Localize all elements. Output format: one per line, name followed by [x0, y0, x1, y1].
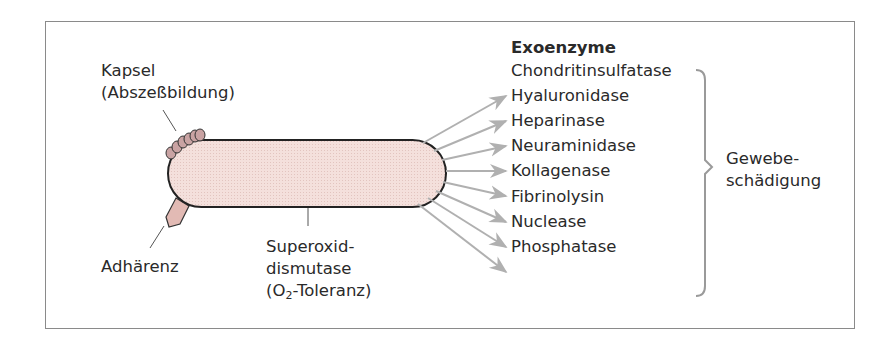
bacterial-cell-icon	[168, 140, 446, 207]
exoenzyme-item: Heparinase	[511, 110, 605, 132]
capsule-label: Kapsel (Abszeßbildung)	[101, 60, 235, 104]
exoenzyme-item: Nuclease	[511, 211, 586, 233]
exoenzyme-item: Hyaluronidase	[511, 85, 629, 107]
adhaerenz-label: Adhärenz	[101, 256, 179, 278]
exoenzyme-item: Kollagenase	[511, 160, 610, 182]
brace-icon	[696, 70, 712, 296]
capsule-leader-line	[163, 110, 176, 131]
adhesin-leader-line	[150, 226, 164, 248]
exoenzyme-item: Neuraminidase	[511, 135, 636, 157]
exoenzyme-title: Exoenzyme	[511, 37, 616, 59]
sod-label: Superoxid- dismutase (O2-Toleranz)	[266, 236, 371, 307]
exoenzyme-item: Fibrinolysin	[511, 186, 604, 208]
tissue-damage-label: Gewebe- schädigung	[726, 148, 821, 192]
exoenzyme-item: Chondritinsulfatase	[511, 60, 672, 82]
exoenzyme-item: Phosphatase	[511, 236, 616, 258]
